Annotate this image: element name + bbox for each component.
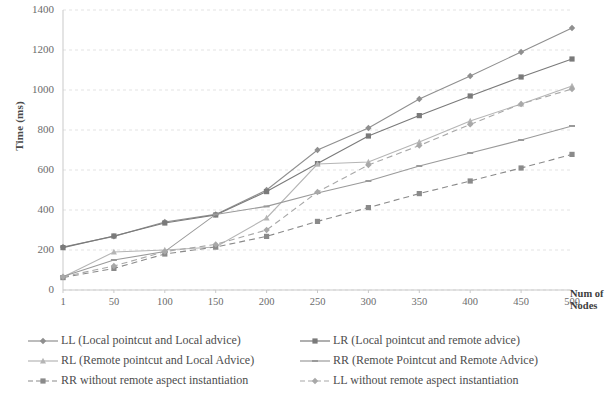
- data-point-marker: [162, 220, 167, 225]
- legend-item-RL[interactable]: RL (Remote pointcut and Local Advice): [28, 353, 254, 367]
- data-point-marker: [366, 133, 371, 138]
- chart-container: Time (ms) 0200400600800100012001400 1501…: [0, 0, 614, 401]
- series-line-RL: [63, 86, 572, 277]
- legend-swatch-RR-noinst: [28, 375, 58, 387]
- data-point-marker: [213, 213, 219, 215]
- data-point-marker: [518, 139, 524, 141]
- data-point-marker: [569, 25, 575, 31]
- data-point-marker: [365, 180, 371, 182]
- legend-item-RR-noinst[interactable]: RR without remote aspect instantiation: [28, 373, 248, 387]
- data-point-marker: [264, 189, 269, 194]
- data-point-marker: [468, 93, 473, 98]
- legend-label: LR (Local pointcut and remote advice): [333, 333, 520, 347]
- data-point-marker: [569, 56, 574, 61]
- legend-swatch-RR: [300, 355, 330, 367]
- x-axis-title-line1: Num of: [570, 288, 604, 299]
- legend-swatch-LR: [300, 335, 330, 347]
- legend-item-LR[interactable]: LR (Local pointcut and remote advice): [300, 333, 520, 347]
- data-point-marker: [518, 49, 524, 55]
- data-point-marker: [312, 339, 317, 344]
- series-line-LL-noinst: [63, 89, 572, 277]
- x-axis-title-line2: Nodes: [570, 300, 597, 311]
- data-point-marker: [40, 379, 45, 384]
- data-point-marker: [315, 219, 320, 224]
- data-point-marker: [468, 178, 473, 183]
- legend-label: LL without remote aspect instantiation: [333, 373, 519, 387]
- data-point-marker: [264, 234, 269, 239]
- data-point-marker: [467, 73, 473, 79]
- data-point-marker: [60, 245, 65, 250]
- legend-swatch-LL: [28, 335, 58, 347]
- legend-item-LL-noinst[interactable]: LL without remote aspect instantiation: [300, 373, 519, 387]
- legend-label: RR without remote aspect instantiation: [61, 373, 248, 387]
- data-point-marker: [569, 125, 575, 127]
- data-point-marker: [467, 152, 473, 154]
- legend-item-LL[interactable]: LL (Local pointcut and Local advice): [28, 333, 241, 347]
- data-point-marker: [312, 378, 318, 384]
- data-point-marker: [417, 191, 422, 196]
- data-point-marker: [264, 205, 270, 207]
- x-axis-title: Num of Nodes: [570, 288, 614, 312]
- data-point-marker: [417, 113, 422, 118]
- data-point-marker: [519, 74, 524, 79]
- series-layer: [60, 25, 575, 280]
- data-point-marker: [314, 189, 320, 195]
- legend-label: LL (Local pointcut and Local advice): [61, 333, 241, 347]
- data-point-marker: [519, 165, 524, 170]
- legend-swatch-LL-noinst: [300, 375, 330, 387]
- data-point-marker: [365, 162, 371, 168]
- chart-legend: LL (Local pointcut and Local advice)LR (…: [0, 327, 614, 401]
- legend-item-RR[interactable]: RR (Remote Pointcut and Remote Advice): [300, 353, 538, 367]
- series-line-RR-noinst: [63, 154, 572, 277]
- data-point-marker: [40, 338, 46, 344]
- data-point-marker: [569, 152, 574, 157]
- data-point-marker: [416, 165, 422, 167]
- series-line-LL: [63, 28, 572, 247]
- legend-label: RL (Remote pointcut and Local Advice): [61, 353, 254, 367]
- data-point-marker: [312, 360, 318, 362]
- data-point-marker: [111, 259, 117, 261]
- data-point-marker: [416, 96, 422, 102]
- data-point-marker: [111, 233, 116, 238]
- legend-swatch-RL: [28, 355, 58, 367]
- legend-label: RR (Remote Pointcut and Remote Advice): [333, 353, 538, 367]
- data-point-marker: [366, 205, 371, 210]
